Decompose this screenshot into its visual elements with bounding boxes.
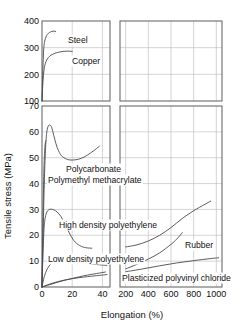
curve-label-hdpe: High density polyethylene: [59, 220, 157, 230]
curve-label-ldpe: Low density polyethylene: [48, 254, 144, 264]
curve-label-pvc: Plasticized polyvinyl chloride: [122, 273, 231, 283]
chart-canvas: 4003002001007060504030201000204020040060…: [0, 0, 246, 326]
x-tick-right-200: 200: [118, 289, 133, 299]
y-tick-bottom-40: 40: [29, 179, 39, 189]
x-tick-right-800: 800: [186, 289, 201, 299]
y-tick-top-200: 200: [24, 70, 39, 80]
y-tick-bottom-70: 70: [29, 101, 39, 111]
curve-label-pmma: Polymethyl methacrylate: [48, 175, 142, 185]
x-tick-left-0: 0: [39, 289, 44, 299]
curve-label-rubber: Rubber: [185, 240, 213, 250]
x-tick-left-40: 40: [97, 289, 107, 299]
y-axis-title: Tensile stress (MPa): [2, 153, 13, 239]
y-tick-bottom-10: 10: [29, 256, 39, 266]
y-tick-bottom-0: 0: [34, 282, 39, 292]
x-tick-right-600: 600: [163, 289, 178, 299]
tensile-stress-elongation-chart: 4003002001007060504030201000204020040060…: [0, 0, 246, 326]
x-tick-right-400: 400: [141, 289, 156, 299]
curve-label-copper: Copper: [72, 56, 100, 66]
curve-label-steel: Steel: [68, 35, 88, 45]
y-tick-bottom-30: 30: [29, 205, 39, 215]
x-tick-right-1000: 1000: [206, 289, 226, 299]
y-tick-top-300: 300: [24, 43, 39, 53]
x-tick-left-20: 20: [67, 289, 77, 299]
curve-label-polycarbonate: Polycarbonate: [66, 164, 121, 174]
y-tick-bottom-60: 60: [29, 127, 39, 137]
y-tick-top-400: 400: [24, 16, 39, 26]
x-axis-title: Elongation (%): [101, 309, 163, 320]
y-tick-bottom-50: 50: [29, 153, 39, 163]
y-tick-bottom-20: 20: [29, 230, 39, 240]
